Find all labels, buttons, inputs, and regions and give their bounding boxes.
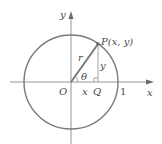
x-axis-label: x — [147, 87, 153, 98]
angle-theta-label: θ — [81, 71, 87, 82]
angle-theta-arc — [75, 76, 78, 82]
origin-label: O — [59, 86, 67, 97]
right-angle-marker — [94, 78, 98, 82]
point-p-marker — [96, 42, 100, 46]
horizontal-leg-x-label: x — [82, 86, 88, 97]
unit-circle-diagram: y x O P(x, y) Q r θ x y 1 — [0, 0, 162, 144]
unit-mark-label: 1 — [120, 86, 126, 97]
point-p-label: P(x, y) — [100, 36, 133, 47]
y-axis-label: y — [59, 9, 66, 20]
vertical-leg-y-label: y — [99, 60, 106, 71]
x-axis-arrow-icon — [146, 80, 154, 85]
y-axis-arrow-icon — [69, 11, 74, 19]
radius-r-label: r — [78, 52, 84, 63]
foot-q-label: Q — [93, 86, 101, 97]
diagram-canvas: y x O P(x, y) Q r θ x y 1 — [0, 0, 162, 144]
